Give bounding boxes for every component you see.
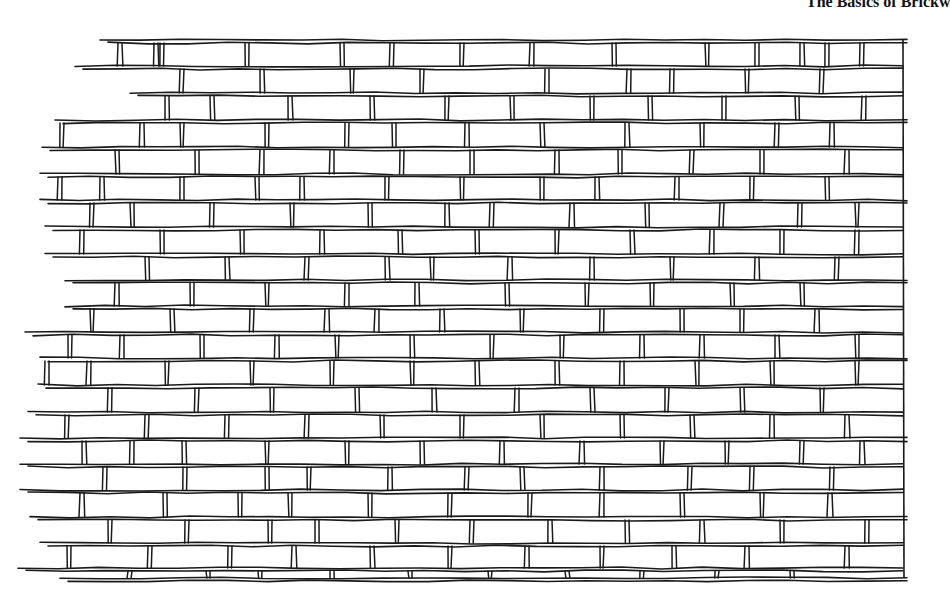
head-joint bbox=[304, 257, 305, 280]
mortar-line bbox=[36, 414, 903, 416]
head-joint bbox=[259, 150, 260, 174]
head-joint bbox=[833, 467, 834, 490]
head-joint bbox=[355, 388, 356, 412]
head-joint bbox=[860, 441, 861, 464]
head-joint bbox=[250, 361, 251, 385]
head-joint bbox=[329, 309, 330, 332]
head-joint bbox=[855, 335, 856, 358]
head-joint bbox=[469, 520, 470, 543]
mortar-line bbox=[130, 92, 903, 94]
head-joint bbox=[719, 203, 720, 227]
head-joint bbox=[668, 388, 669, 412]
head-joint bbox=[749, 467, 750, 490]
head-joint bbox=[509, 283, 510, 306]
head-joint bbox=[214, 203, 215, 227]
mortar-line bbox=[28, 492, 903, 494]
head-joint bbox=[329, 150, 330, 174]
head-joint bbox=[844, 546, 845, 568]
head-joint bbox=[308, 257, 309, 280]
head-joint bbox=[763, 493, 764, 517]
head-joint bbox=[640, 335, 641, 358]
head-joint bbox=[544, 123, 545, 147]
head-joint bbox=[434, 257, 435, 280]
mortar-line bbox=[48, 360, 907, 362]
wall-edge-line bbox=[903, 40, 904, 578]
head-joint bbox=[728, 441, 729, 464]
head-joint bbox=[398, 230, 399, 254]
head-joint bbox=[829, 467, 830, 490]
head-joint bbox=[778, 123, 779, 147]
mortar-line bbox=[30, 516, 907, 518]
head-joint bbox=[559, 361, 560, 385]
head-joint bbox=[520, 467, 521, 490]
head-joint bbox=[115, 150, 116, 174]
head-joint bbox=[253, 361, 254, 385]
mortar-line bbox=[73, 282, 907, 284]
head-joint bbox=[524, 467, 525, 490]
head-joint bbox=[634, 230, 635, 254]
head-joint bbox=[823, 69, 824, 93]
head-joint bbox=[290, 203, 291, 227]
head-joint bbox=[93, 203, 94, 227]
mortar-line bbox=[68, 580, 907, 582]
head-joint bbox=[93, 309, 94, 332]
head-joint bbox=[523, 309, 524, 332]
head-joint bbox=[90, 203, 91, 227]
head-joint bbox=[629, 520, 630, 543]
head-joint bbox=[79, 230, 80, 254]
head-joint bbox=[410, 361, 411, 385]
head-joint bbox=[393, 43, 394, 66]
head-joint bbox=[338, 335, 339, 358]
head-joint bbox=[151, 546, 152, 568]
head-joint bbox=[139, 123, 140, 147]
head-joint bbox=[424, 441, 425, 464]
head-joint bbox=[374, 96, 375, 120]
head-joint bbox=[111, 520, 112, 543]
head-joint bbox=[144, 123, 145, 147]
head-joint bbox=[107, 388, 108, 412]
head-joint bbox=[229, 257, 230, 280]
mortar-line bbox=[83, 68, 903, 70]
head-joint bbox=[590, 388, 591, 412]
head-joint bbox=[255, 177, 256, 200]
head-joint bbox=[198, 388, 199, 412]
head-joint bbox=[531, 493, 532, 517]
head-joint bbox=[214, 96, 215, 120]
head-joint bbox=[804, 43, 805, 66]
head-joint bbox=[744, 388, 745, 412]
mortar-line bbox=[26, 570, 903, 572]
head-joint bbox=[292, 96, 293, 120]
head-joint bbox=[709, 230, 710, 254]
mortar-line bbox=[28, 411, 903, 413]
head-joint bbox=[335, 335, 336, 358]
mortar-line bbox=[28, 440, 907, 442]
head-joint bbox=[569, 203, 570, 227]
head-joint bbox=[670, 257, 671, 280]
head-joint bbox=[258, 571, 259, 578]
head-joint bbox=[569, 571, 570, 578]
head-joint bbox=[493, 203, 494, 227]
head-joint bbox=[117, 43, 118, 66]
head-joint bbox=[510, 96, 511, 120]
mortar-line bbox=[55, 119, 907, 121]
head-joint bbox=[380, 415, 381, 438]
head-joint bbox=[620, 415, 621, 438]
head-joint bbox=[565, 571, 566, 578]
head-joint bbox=[308, 415, 309, 438]
mortar-line bbox=[50, 149, 903, 151]
head-joint bbox=[389, 257, 390, 280]
head-joint bbox=[704, 335, 705, 358]
head-joint bbox=[114, 283, 115, 306]
head-joint bbox=[395, 520, 396, 543]
head-joint bbox=[183, 69, 184, 93]
head-joint bbox=[723, 203, 724, 227]
head-joint bbox=[819, 309, 820, 332]
head-joint bbox=[324, 309, 325, 332]
head-joint bbox=[700, 123, 701, 147]
head-joint bbox=[344, 283, 345, 306]
head-joint bbox=[274, 335, 275, 358]
head-joint bbox=[803, 441, 804, 464]
mortar-bed-lines bbox=[18, 39, 907, 581]
head-joint bbox=[359, 388, 360, 412]
head-joint bbox=[296, 546, 297, 568]
